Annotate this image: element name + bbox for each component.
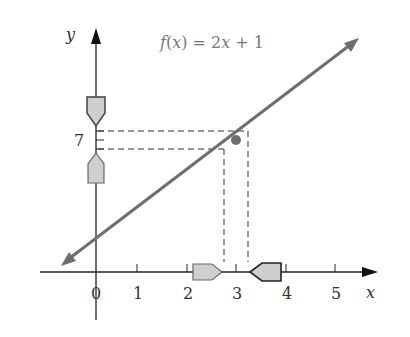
x-left-pointer-icon	[193, 264, 222, 280]
x-axis-label: x	[366, 283, 375, 302]
x-tick-label-3: 3	[232, 284, 242, 303]
y-upper-pointer-icon	[87, 97, 105, 126]
x-tick-label-5: 5	[331, 284, 341, 303]
x-tick-label-2: 2	[183, 284, 193, 303]
x-tick-label-4: 4	[282, 284, 292, 303]
y-tick-label-7: 7	[74, 131, 84, 150]
function-graph-figure: f(x) = 2x + 1 y 7 x 0 1 2 3 4 5	[0, 0, 410, 337]
y-axis-arrow-icon	[91, 28, 101, 44]
line-arrow-upper-icon	[344, 38, 359, 52]
function-line	[61, 38, 359, 266]
x-tick-label-0: 0	[91, 284, 101, 303]
x-tick-label-1: 1	[133, 284, 143, 303]
x-axis-arrow-icon	[362, 267, 378, 277]
y-axis-label: y	[65, 25, 76, 44]
point-3-7	[231, 135, 241, 145]
dashed-guides	[98, 131, 248, 262]
x-right-pointer-icon	[250, 263, 281, 281]
y-lower-pointer-icon	[88, 153, 104, 183]
function-title: f(x) = 2x + 1	[159, 33, 264, 52]
